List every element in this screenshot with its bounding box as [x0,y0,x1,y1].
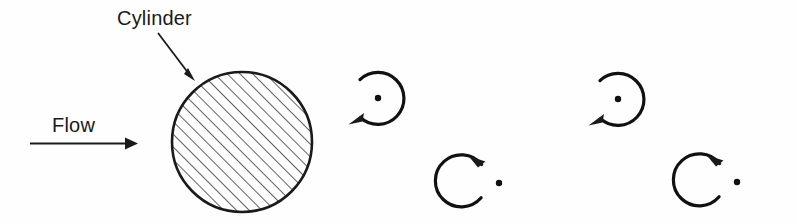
vortex-street-figure: Cylinder Flow [0,0,797,224]
vortex-1-arrowhead [349,113,365,125]
vortex-3 [589,73,644,125]
flow-label: Flow [52,114,95,136]
vortex-2-arrowhead [469,156,486,168]
vortex-3-arc [600,73,644,125]
vortex-3-arrowhead [589,114,605,126]
flow-arrowhead [125,138,138,150]
vortex-4 [673,154,740,206]
cylinder-label: Cylinder [117,7,192,29]
vortex-1-arc [360,72,404,124]
vortex-1 [349,72,404,124]
diagram-canvas: Cylinder Flow [0,0,797,224]
vortex-1-center-dot [375,95,381,101]
vortex-4-center-dot [734,179,740,185]
cylinder-shape [172,72,312,212]
vortex-2-center-dot [496,180,502,186]
vortex-4-arrowhead [707,155,724,167]
vortex-2 [435,155,502,207]
vortex-3-center-dot [615,96,621,102]
cylinder-pointer-arrow [158,33,195,81]
flow-arrow [30,138,138,150]
